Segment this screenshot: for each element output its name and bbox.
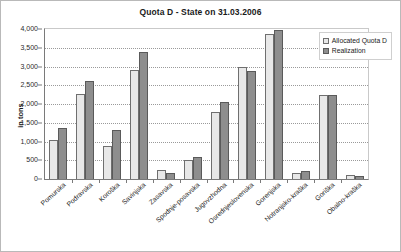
bar xyxy=(274,30,283,179)
y-axis-tick-label: 2,000 xyxy=(20,100,38,107)
x-axis-tick-label: Savinjska xyxy=(121,181,147,206)
y-axis-tick-label: 4,000 xyxy=(20,25,38,32)
x-axis-tick-label: Koroška xyxy=(97,181,120,203)
y-axis-tick-label: 500 xyxy=(26,156,38,163)
chart-title: Quota D - State on 31.03.2006 xyxy=(1,7,400,17)
x-axis-labels: PomurskaPodravskaKoroškaSavinjskaZasavsk… xyxy=(45,181,368,251)
bar xyxy=(355,176,364,179)
y-axis-tick-mark xyxy=(38,122,42,123)
bar xyxy=(319,95,328,179)
bar xyxy=(238,67,247,180)
bar-group xyxy=(126,29,153,179)
y-axis-tick-mark xyxy=(38,160,42,161)
bar-group xyxy=(45,29,72,179)
chart-frame: Quota D - State on 31.03.2006 in tons 4,… xyxy=(0,0,401,252)
y-axis-tick-label: 1,000 xyxy=(20,137,38,144)
y-axis-tick-label: 1,500 xyxy=(20,118,38,125)
bar xyxy=(157,170,166,179)
bar-group xyxy=(180,29,207,179)
bar xyxy=(301,171,310,179)
legend-label-realization: Realization xyxy=(332,46,366,56)
y-axis-tick-mark xyxy=(38,85,42,86)
bar xyxy=(49,140,58,179)
legend-label-allocated: Allocated Quota D xyxy=(332,36,387,46)
bar xyxy=(139,52,148,180)
bar xyxy=(265,34,274,179)
x-axis-tick-label: Podravska xyxy=(65,181,94,208)
bar xyxy=(220,102,229,179)
bar xyxy=(346,175,355,179)
y-axis-tick-label: 3,000 xyxy=(20,62,38,69)
y-axis-tick-mark xyxy=(38,179,42,180)
bar xyxy=(58,128,67,179)
y-axis-tick-mark xyxy=(38,141,42,142)
bar xyxy=(292,173,301,179)
bar xyxy=(130,70,139,179)
bar xyxy=(76,94,85,180)
bar xyxy=(166,173,175,179)
legend-item-allocated: Allocated Quota D xyxy=(323,36,387,46)
legend-item-realization: Realization xyxy=(323,46,387,56)
legend-swatch-realization xyxy=(323,48,329,54)
legend-swatch-allocated xyxy=(323,38,329,44)
y-axis-tick-label: 3,500 xyxy=(20,43,38,50)
bar xyxy=(193,157,202,180)
x-axis-tick-label: Pomurska xyxy=(39,181,66,207)
bar-group xyxy=(233,29,260,179)
chart-legend: Allocated Quota D Realization xyxy=(319,32,392,60)
bar xyxy=(85,81,94,179)
y-axis-tick-mark xyxy=(38,47,42,48)
y-axis-tick-label: 2,500 xyxy=(20,81,38,88)
bar xyxy=(247,71,256,179)
bar xyxy=(112,130,121,179)
bar-group xyxy=(207,29,234,179)
bar-group xyxy=(260,29,287,179)
bar-group xyxy=(72,29,99,179)
bar-group xyxy=(153,29,180,179)
y-axis-tick-mark xyxy=(38,29,42,30)
x-axis-tick-label: Zasavska xyxy=(148,181,174,206)
y-axis: in tons 4,0003,5003,0002,5002,0001,5001,… xyxy=(1,28,42,180)
bar xyxy=(184,160,193,180)
bar-group xyxy=(99,29,126,179)
y-axis-tick-mark xyxy=(38,66,42,67)
y-axis-tick-mark xyxy=(38,104,42,105)
bar xyxy=(103,146,112,179)
bar xyxy=(328,95,337,179)
bar xyxy=(211,112,220,179)
bar-group xyxy=(287,29,314,179)
x-axis-tick-label: Goriška xyxy=(313,181,335,202)
